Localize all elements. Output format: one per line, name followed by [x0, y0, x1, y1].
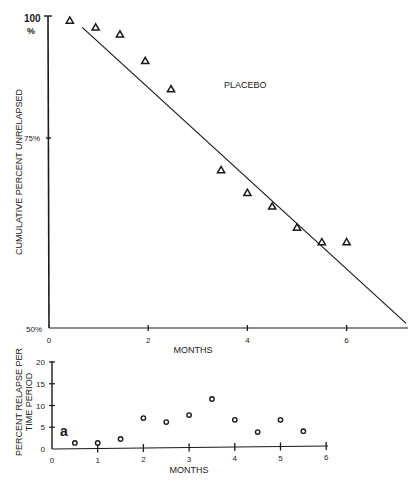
upper-x-tick-label: 6	[344, 336, 349, 345]
lower-y-tick-label: 5	[41, 423, 46, 432]
upper-x-tick-label: 0	[47, 336, 52, 345]
circle-data-point	[301, 429, 305, 433]
lower-y-tick-label: 15	[36, 380, 45, 389]
circle-data-point	[255, 430, 259, 434]
lower-x-tick-label: 5	[278, 454, 283, 463]
lower-x-tick-label: 6	[324, 453, 329, 462]
circle-data-point	[96, 441, 100, 445]
lower-y-tick-label: 0	[41, 445, 46, 454]
upper-y-axis	[48, 16, 49, 328]
circle-data-point	[141, 416, 145, 420]
triangle-data-point	[218, 166, 225, 172]
lower-y-tick-label: 10	[36, 402, 45, 411]
circle-data-point	[210, 397, 214, 401]
lower-y-axis-label-line1: PERCENT RELAPSE PER	[14, 348, 24, 456]
upper-y-axis-label: CUMULATIVE PERCENT UNRELAPSED	[14, 88, 24, 255]
lower-x-axis	[52, 446, 328, 449]
triangle-data-point	[92, 24, 99, 30]
upper-x-tick-label: 4	[245, 336, 250, 345]
upper-x-axis-label: MONTHS	[174, 345, 213, 355]
upper-y-tick-label-100-unit: %	[27, 26, 35, 36]
lower-x-tick-label: 3	[187, 455, 192, 464]
triangle-data-point	[66, 17, 73, 23]
triangle-data-point	[293, 224, 300, 230]
lower-x-tick-label: 1	[95, 456, 100, 465]
circle-data-point	[73, 441, 77, 445]
triangle-data-point	[116, 31, 123, 37]
fitted-regression-line	[82, 27, 406, 323]
lower-x-axis-label: MONTHS	[170, 465, 209, 475]
panel-label-a: a	[60, 423, 68, 439]
triangle-data-point	[167, 86, 174, 92]
circle-data-point	[233, 418, 237, 422]
lower-x-ticks: 0123456	[50, 442, 329, 465]
upper-y-tick-label-50: 50%	[26, 325, 42, 334]
placebo-annotation: PLACEBO	[224, 80, 267, 90]
circle-data-point	[187, 413, 191, 417]
lower-chart: 05101520 0123456 PERCENT RELAPSE PER TIM…	[14, 348, 329, 475]
figure: 0246 100 % 75% 50% CUMULATIVE PERCENT UN…	[0, 0, 417, 483]
upper-chart: 0246 100 % 75% 50% CUMULATIVE PERCENT UN…	[14, 13, 408, 355]
triangle-data-point	[343, 239, 350, 245]
circle-data-point	[164, 420, 168, 424]
circle-data-point	[278, 418, 282, 422]
lower-y-axis-label-line2: TIME PERIOD	[24, 372, 34, 431]
lower-x-tick-label: 0	[50, 456, 55, 465]
triangle-data-point	[318, 239, 325, 245]
lower-x-tick-label: 4	[233, 454, 238, 463]
upper-x-tick-label: 2	[146, 336, 151, 345]
upper-y-tick-label-75: 75%	[24, 134, 40, 143]
lower-x-tick-label: 2	[141, 455, 146, 464]
triangle-data-point	[244, 189, 251, 195]
circle-data-point	[118, 437, 122, 441]
lower-y-tick-label: 20	[36, 358, 45, 367]
lower-data-points	[73, 397, 306, 445]
triangle-data-point	[142, 57, 149, 63]
upper-y-tick-label-100: 100	[24, 13, 41, 24]
